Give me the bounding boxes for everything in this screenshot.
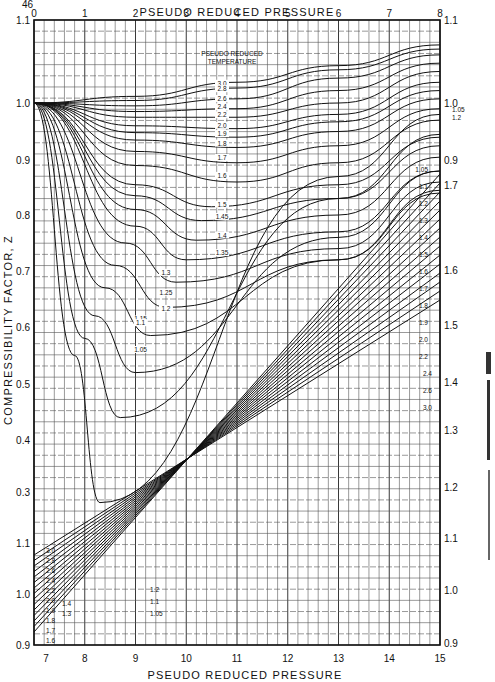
right-curve-label: 1.6 [419,268,428,275]
right-axis-tick: 0.9 [444,155,458,166]
curve-label: 2.0 [217,122,226,129]
top-axis-tick: 8 [437,8,443,19]
bottom-axis-tick: 12 [282,653,294,664]
right-axis-tick-middle: 1.4 [444,377,458,388]
left-axis-tick: 0.4 [16,435,30,446]
right-axis-tick-middle: 1.3 [444,425,458,436]
top-axis-tick: 0 [31,8,37,19]
right-curve-label: 1.2 [452,114,461,121]
curve-label: 1.3 [161,269,170,276]
left-curve-label: 2.8 [46,557,55,564]
compressibility-chart: 46PSEUDO REDUCED PRESSURE012345678789101… [0,0,495,682]
right-axis-tick-middle: 0.9 [444,638,458,649]
bottom-axis-tick: 11 [232,653,243,664]
left-curve-label: 1.8 [46,617,55,624]
right-curve-label: 1.4 [419,234,428,241]
right-curve-label: 2.2 [419,353,428,360]
top-axis-tick: 5 [285,8,291,19]
left-axis-tick-lower: 1.1 [16,538,30,549]
top-axis-tick: 4 [234,8,240,19]
margin-mark [487,380,490,460]
left-curve-label: 1.2 [150,586,159,593]
bottom-axis-tick: 7 [43,653,49,664]
left-axis-tick: 1.1 [16,15,30,26]
left-axis-tick: 0.6 [16,322,30,333]
left-curve-label: 2.0 [46,597,55,604]
right-curve-label: 1.7 [419,285,428,292]
right-curve-label: 1.5 [419,251,428,258]
right-axis-tick: 1.1 [444,15,458,26]
left-curve-label: 1.9 [46,607,55,614]
curve-label: 1.05 [134,346,147,353]
left-axis-tick: 0.7 [16,266,30,277]
curve-label: 1.1 [136,319,145,326]
right-axis-tick-middle: 1.1 [444,533,458,544]
right-curve-label: 1.9 [419,319,428,326]
curve-label: 1.6 [217,172,226,179]
left-axis-title: COMPRESSIBILITY FACTOR, Z [2,235,14,425]
right-curve-label: 1.05 [415,166,428,173]
bottom-axis-tick: 13 [333,653,345,664]
curve-label: 1.25 [160,289,173,296]
margin-mark [488,470,490,560]
right-curve-label: 1.05 [452,106,465,113]
left-curve-label: 2.2 [46,587,55,594]
bottom-axis-tick: 9 [133,653,139,664]
curve-label: 1.9 [217,130,226,137]
right-curve-label: 2.4 [423,370,432,377]
legend-title: TEMPERATURE [208,58,257,65]
curve-label: 2.8 [217,85,226,92]
bottom-axis-title: PSEUDO REDUCED PRESSURE [147,669,342,681]
left-axis-tick: 0.8 [16,210,30,221]
left-axis-tick: 1.0 [16,98,30,109]
right-axis-tick-middle: 1.6 [444,265,458,276]
curve-label: 1.4 [217,232,226,239]
left-curve-label: 1.4 [62,600,71,607]
right-curve-label: 2.6 [423,387,432,394]
left-axis-tick: 0.3 [16,487,30,498]
left-curve-label: 1.3 [62,610,71,617]
right-axis-tick-middle: 1.5 [444,320,458,331]
legend-title: PSEUDO REDUCED [201,50,263,57]
curve-label: 1.7 [217,154,226,161]
curve-label: 1.8 [217,140,226,147]
top-axis-tick: 2 [133,8,139,19]
chart-grid [34,20,440,645]
curve-label: 2.6 [217,95,226,102]
right-curve-label: 2.0 [419,336,428,343]
bottom-axis-tick: 8 [82,653,88,664]
bottom-axis-tick: 15 [434,653,446,664]
left-curve-label: 1.05 [150,610,163,617]
left-axis-tick-lower: 1.0 [16,589,30,600]
left-curve-label: 1.1 [150,598,159,605]
left-curve-label: 1.7 [46,627,55,634]
left-curve-label: 1.6 [46,637,55,644]
right-curve-label: 1.2 [419,200,428,207]
left-curve-label: 2.4 [46,577,55,584]
top-axis-tick: 1 [82,8,88,19]
right-axis-tick-middle: 1.2 [444,482,458,493]
left-axis-tick-lower: 0.9 [16,640,30,651]
top-axis-tick: 7 [386,8,392,19]
right-curve-label: 1.8 [419,302,428,309]
right-axis-tick-middle: 1.0 [444,585,458,596]
right-curve-label: 1.3 [419,217,428,224]
margin-mark [486,352,491,374]
left-curve-label: 3.0 [46,547,55,554]
left-curve-label: 2.6 [46,567,55,574]
bottom-axis-tick: 14 [384,653,396,664]
right-curve-label: 3.0 [423,404,432,411]
curve-label: 2.4 [217,103,226,110]
bottom-axis-tick: 10 [181,653,193,664]
top-axis-tick: 6 [336,8,342,19]
curve-label: 1.5 [217,201,226,208]
curve-label: 1.45 [216,213,229,220]
right-axis-tick-middle: 1.7 [444,180,458,191]
left-axis-tick: 0.5 [16,379,30,390]
curve-label: 2.2 [217,111,226,118]
left-axis-tick: 0.9 [16,155,30,166]
curve-label: 1.2 [161,305,170,312]
top-axis-tick: 3 [183,8,189,19]
right-curve-label: 1.1 [419,183,428,190]
curve-label: 1.35 [216,249,229,256]
